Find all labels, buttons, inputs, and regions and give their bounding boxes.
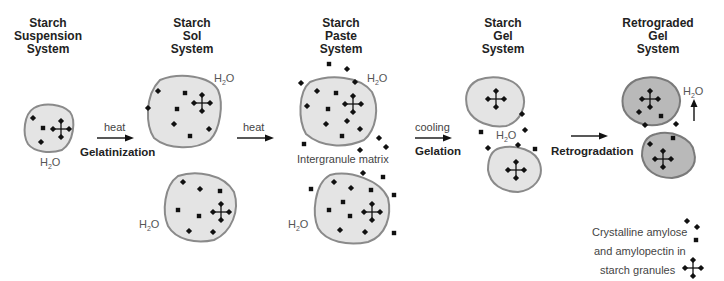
transition-condition-heat: heat — [104, 121, 125, 133]
paste-granule-bottom — [315, 174, 389, 244]
water-label: H2O — [40, 156, 61, 170]
legend: Crystalline amylose and amylopectin in s… — [592, 218, 704, 279]
retrograded-particle — [673, 121, 679, 127]
transition-gelation: cooling Gelation — [415, 121, 461, 157]
transition-heat: heat — [237, 121, 274, 142]
transition-name-gelatinization: Gelatinization — [80, 146, 155, 158]
water-label: H2O — [496, 129, 517, 143]
retrograded-granule-top — [623, 77, 681, 128]
water-label: H2O — [683, 85, 704, 99]
arrow-right-icon — [443, 135, 452, 142]
starch-process-diagram: StarchSuspensionSystem StarchSolSystem S… — [0, 0, 724, 281]
water-label: H2O — [288, 218, 309, 232]
water-label: H2O — [139, 218, 160, 232]
sol-granule-top — [145, 76, 221, 147]
transition-condition-cooling: cooling — [415, 121, 450, 133]
suspension-granule — [25, 105, 74, 152]
retrograded-granule-bottom — [642, 133, 695, 178]
water-release-arrow-icon — [691, 99, 698, 121]
title-suspension: StarchSuspensionSystem — [14, 16, 82, 56]
transition-name-gelation: Gelation — [415, 145, 461, 157]
intergranule-matrix-label: Intergranule matrix — [297, 153, 389, 165]
arrow-right-icon — [125, 135, 134, 142]
water-label: H2O — [367, 72, 388, 86]
legend-line-1: Crystalline amylose — [592, 226, 687, 238]
legend-amylopectin-cross-icon — [682, 257, 704, 279]
stage-titles: StarchSuspensionSystem StarchSolSystem S… — [14, 16, 694, 56]
gel-granule-top — [466, 77, 524, 126]
title-sol: StarchSolSystem — [171, 16, 214, 56]
title-retrograded: RetrogradedGelSystem — [622, 16, 693, 56]
legend-line-2: and amylopectin in — [594, 245, 686, 257]
gel-granule-bottom — [488, 147, 541, 192]
water-label: H2O — [214, 72, 235, 86]
transition-gelatinization: heat Gelatinization — [80, 121, 155, 158]
transition-retrogradation: Retrogradation — [551, 133, 633, 158]
transition-name-retrogradation: Retrogradation — [551, 145, 633, 157]
paste-granule-top — [300, 77, 376, 145]
transition-condition-heat: heat — [243, 121, 264, 133]
legend-line-3: starch granules — [600, 264, 676, 276]
arrow-right-icon — [265, 135, 274, 142]
title-paste: StarchPasteSystem — [320, 16, 363, 56]
arrow-right-icon — [599, 133, 608, 140]
title-gel: StarchGelSystem — [482, 16, 525, 56]
sol-granule-bottom — [165, 173, 236, 241]
